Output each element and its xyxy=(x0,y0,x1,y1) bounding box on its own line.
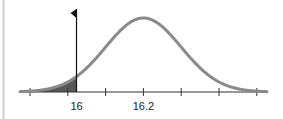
normal-distribution-chart: 1616.2 xyxy=(0,0,283,119)
x-axis-labels: 1616.2 xyxy=(70,100,154,112)
x-tick-label: 16.2 xyxy=(133,100,154,112)
flag-icon xyxy=(71,9,77,18)
x-tick-label: 16 xyxy=(70,100,82,112)
normal-curve xyxy=(20,18,267,92)
